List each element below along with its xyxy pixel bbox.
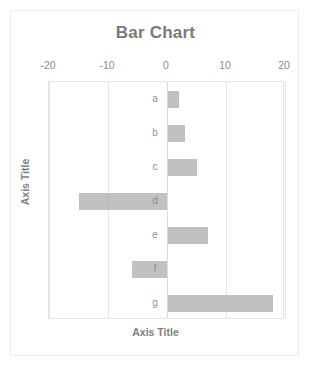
x-tick-label-3: 10 — [205, 59, 245, 71]
x-tick-label-2: 0 — [146, 59, 186, 71]
category-label-g: g — [148, 298, 162, 308]
x-tick-label-0: -20 — [28, 59, 68, 71]
chart-title: Bar Chart — [11, 23, 300, 43]
gridline-4 — [285, 82, 286, 318]
category-label-b: b — [148, 128, 162, 138]
x-axis-title: Axis Title — [11, 326, 300, 338]
x-tick-label-1: -10 — [87, 59, 127, 71]
category-label-d: d — [148, 196, 162, 206]
category-label-e: e — [148, 230, 162, 240]
y-axis-title: Axis Title — [19, 142, 31, 222]
x-tick-label-4: 20 — [264, 59, 304, 71]
category-label-f: f — [148, 264, 162, 274]
bar-c[interactable] — [167, 159, 197, 176]
category-label-c: c — [148, 162, 162, 172]
bar-e[interactable] — [167, 227, 208, 244]
gridline-3 — [226, 82, 227, 318]
category-label-a: a — [148, 94, 162, 104]
gridline-0 — [49, 82, 50, 318]
plot-area: abcdefg — [48, 81, 284, 319]
bar-g[interactable] — [167, 295, 273, 312]
bar-chart-figure: Bar Chart -20-1001020 abcdefg Axis Title… — [10, 10, 299, 356]
bar-a[interactable] — [167, 91, 179, 108]
bar-b[interactable] — [167, 125, 185, 142]
zero-axis-line — [167, 82, 168, 318]
